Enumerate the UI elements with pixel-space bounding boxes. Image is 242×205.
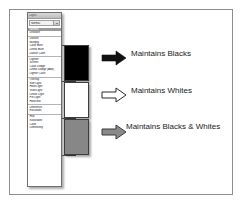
menu-item-exclusion[interactable]: Exclusion xyxy=(28,109,61,113)
callout-label-maintains-whites: Maintains Whites xyxy=(131,86,192,96)
panel-titlebar: Layers xyxy=(28,13,61,19)
swatch-white xyxy=(64,82,89,118)
blend-mode-dropdown-panel[interactable]: Layers Normal Normal Dissolve Darken Mul… xyxy=(27,12,62,187)
figure-canvas: Layers Normal Normal Dissolve Darken Mul… xyxy=(0,0,242,205)
blend-mode-group-darken: Darken Multiply Color Burn Linear Burn D… xyxy=(28,37,61,57)
arrow-solid-gray-icon xyxy=(101,124,127,140)
arrow-outline-white-icon xyxy=(101,87,127,103)
callout-label-maintains-blacks-and-whites: Maintains Blacks & Whites xyxy=(126,122,220,132)
swatch-black xyxy=(64,45,89,81)
chevron-down-icon[interactable] xyxy=(53,21,59,25)
panel-title: Layers xyxy=(29,14,37,17)
swatch-gray xyxy=(64,119,89,155)
blend-mode-group-component: Hue Saturation Color Luminosity xyxy=(28,115,61,131)
callout-label-maintains-blacks: Maintains Blacks xyxy=(131,49,191,59)
blend-mode-selected-value: Normal xyxy=(30,22,53,25)
menu-item-luminosity[interactable]: Luminosity xyxy=(28,126,61,130)
blend-mode-group-comparative: Difference Exclusion xyxy=(28,105,61,115)
connector-line-contrast-bottom xyxy=(62,155,76,156)
menu-item-lighter-color[interactable]: Lighter Color xyxy=(28,72,61,76)
menu-item-hard-mix[interactable]: Hard Mix xyxy=(28,100,61,104)
menu-item-darker-color[interactable]: Darker Color xyxy=(28,52,61,56)
arrow-solid-black-icon xyxy=(101,50,127,66)
blend-mode-group-lighten: Lighten Screen Color Dodge Linear Dodge … xyxy=(28,57,61,77)
blend-mode-group-contrast: Overlay Soft Light Hard Light Vivid Ligh… xyxy=(28,78,61,106)
menu-item-dissolve[interactable]: Dissolve xyxy=(28,31,61,35)
blend-mode-list[interactable]: Normal Dissolve Darken Multiply Color Bu… xyxy=(28,27,61,131)
blend-mode-combobox[interactable]: Normal xyxy=(29,20,60,26)
blend-mode-group-normal: Normal Dissolve xyxy=(28,27,61,37)
